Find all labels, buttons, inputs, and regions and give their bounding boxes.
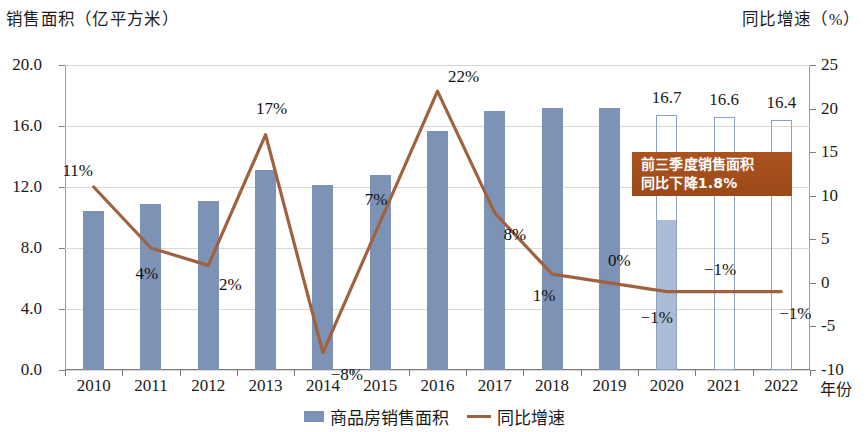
x-tick-mark [352,370,353,376]
right-tick-mark [810,196,816,197]
growth-label-2021: −1% [704,260,736,280]
left-tick-label: 8.0 [0,238,42,258]
bar-2013[interactable] [255,170,276,370]
x-tick-2017: 2017 [478,376,512,396]
bar-2011[interactable] [140,204,161,370]
bar-2017[interactable] [484,111,505,370]
left-tick-mark [59,126,65,127]
right-tick-label: 10 [821,186,868,206]
x-tick-mark [180,370,181,376]
x-tick-2022: 2022 [764,376,798,396]
gridline [65,65,810,66]
x-tick-2015: 2015 [363,376,397,396]
x-tick-mark [237,370,238,376]
callout-line-2: 同比下降1.8% [641,174,784,193]
growth-label-2013: 17% [256,99,287,119]
right-axis-line [809,65,810,370]
growth-label-2020: −1% [641,308,673,328]
x-tick-2014: 2014 [306,376,340,396]
growth-label-2022: −1% [779,304,811,324]
right-tick-mark [810,65,816,66]
right-tick-mark [810,239,816,240]
x-axis-title: 年份 [820,376,852,400]
x-tick-2021: 2021 [707,376,741,396]
chart-container: 销售面积（亿平方米） 同比增速（%） 0.04.08.012.016.020.0… [0,0,868,432]
growth-label-2018: 1% [533,286,556,306]
x-tick-mark [294,370,295,376]
legend-label-bar: 商品房销售面积 [330,404,449,429]
right-tick-mark [810,152,816,153]
x-tick-mark [581,370,582,376]
left-tick-label: 4.0 [0,299,42,319]
left-axis-line [65,65,66,370]
x-tick-mark [122,370,123,376]
left-axis-title: 销售面积（亿平方米） [6,6,179,30]
x-tick-2019: 2019 [592,376,626,396]
line-swatch-icon [467,415,491,418]
right-tick-label: 15 [821,142,868,162]
growth-label-2017: 8% [503,225,526,245]
legend-item-bar[interactable]: 商品房销售面积 [304,404,449,429]
left-tick-label: 12.0 [0,177,42,197]
x-tick-mark [638,370,639,376]
growth-label-2019: 0% [608,251,631,271]
x-tick-mark [695,370,696,376]
bar-value-2022: 16.4 [766,93,796,113]
gridline [65,126,810,127]
left-tick-mark [59,309,65,310]
right-tick-label: -5 [821,316,868,336]
right-tick-label: 25 [821,55,868,75]
x-tick-mark [753,370,754,376]
x-tick-2010: 2010 [77,376,111,396]
bar-value-2021: 16.6 [709,90,739,110]
x-tick-2018: 2018 [535,376,569,396]
legend: 商品房销售面积 同比增速 [0,404,868,429]
left-tick-label: 20.0 [0,55,42,75]
x-tick-mark [65,370,66,376]
bar-2018[interactable] [542,108,563,370]
x-tick-mark [466,370,467,376]
left-tick-mark [59,248,65,249]
bar-partial-fill [657,220,676,369]
bar-swatch-icon [304,411,324,422]
growth-label-2010: 11% [62,161,93,181]
bar-2016[interactable] [427,131,448,370]
right-tick-mark [810,283,816,284]
bar-2012[interactable] [198,201,219,370]
x-tick-mark [523,370,524,376]
x-tick-2013: 2013 [249,376,283,396]
right-tick-mark [810,326,816,327]
x-tick-2012: 2012 [191,376,225,396]
bar-2014[interactable] [312,185,333,370]
right-tick-label: 20 [821,99,868,119]
left-tick-mark [59,65,65,66]
callout-line-1: 前三季度销售面积 [641,155,784,174]
legend-item-line[interactable]: 同比增速 [467,404,565,429]
growth-label-2012: 2% [219,275,242,295]
right-axis-title: 同比增速（%） [742,6,860,30]
bar-2010[interactable] [83,211,104,370]
growth-label-2016: 22% [448,67,479,87]
x-tick-mark [810,370,811,376]
left-tick-label: 0.0 [0,360,42,380]
x-tick-2011: 2011 [134,376,167,396]
growth-label-2015: 7% [365,190,388,210]
left-tick-mark [59,187,65,188]
plot-area: 0.04.08.012.016.020.0 -10-50510152025 11… [65,65,810,370]
bar-2019[interactable] [599,108,620,370]
x-tick-2020: 2020 [650,376,684,396]
x-tick-mark [409,370,410,376]
x-tick-2016: 2016 [421,376,455,396]
callout-annotation: 前三季度销售面积 同比下降1.8% [632,152,792,196]
right-tick-mark [810,109,816,110]
legend-label-line: 同比增速 [497,404,565,429]
right-tick-label: 5 [821,229,868,249]
left-tick-label: 16.0 [0,116,42,136]
bar-value-2020: 16.7 [652,88,682,108]
right-tick-label: 0 [821,273,868,293]
gridline [65,370,810,371]
growth-label-2011: 4% [136,264,159,284]
